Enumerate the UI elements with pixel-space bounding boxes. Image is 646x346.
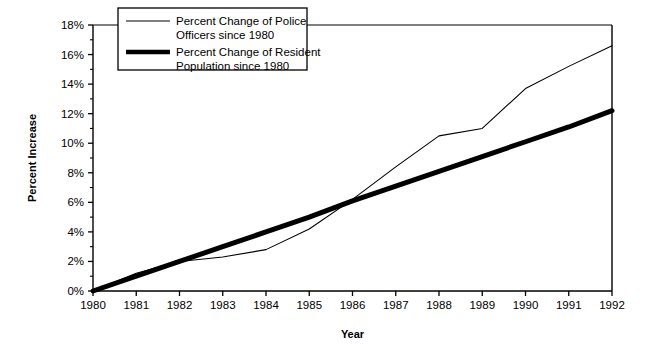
y-tick-label: 0% xyxy=(67,285,84,297)
legend-label-resident-population-line2: Population since 1980 xyxy=(176,60,289,72)
y-axis-title: Percent Increase xyxy=(26,114,38,202)
legend-label-resident-population-line1: Percent Change of Resident xyxy=(176,46,321,58)
x-tick-label: 1984 xyxy=(253,299,279,311)
x-tick-label: 1982 xyxy=(167,299,193,311)
y-tick-label: 10% xyxy=(61,137,84,149)
legend-label-police-officers-line2: Officers since 1980 xyxy=(176,29,274,41)
x-axis-title: Year xyxy=(341,328,365,340)
chart-page: 0%2%4%6%8%10%12%14%16%18%198019811982198… xyxy=(0,0,646,346)
legend-label-police-officers-line1: Percent Change of Police xyxy=(176,15,306,27)
x-tick-label: 1990 xyxy=(513,299,539,311)
x-tick-label: 1983 xyxy=(210,299,236,311)
x-tick-label: 1986 xyxy=(340,299,366,311)
y-tick-label: 6% xyxy=(67,196,84,208)
x-tick-label: 1988 xyxy=(426,299,452,311)
series-line-police-officers xyxy=(93,46,612,291)
y-tick-label: 8% xyxy=(67,167,84,179)
x-tick-label: 1981 xyxy=(123,299,149,311)
y-tick-label: 14% xyxy=(61,78,84,90)
x-tick-label: 1985 xyxy=(296,299,322,311)
line-chart: 0%2%4%6%8%10%12%14%16%18%198019811982198… xyxy=(0,0,646,346)
x-tick-label: 1992 xyxy=(599,299,625,311)
x-tick-label: 1987 xyxy=(383,299,409,311)
y-tick-label: 4% xyxy=(67,226,84,238)
x-tick-label: 1980 xyxy=(80,299,106,311)
y-tick-label: 16% xyxy=(61,49,84,61)
series-line-resident-population xyxy=(93,111,612,291)
x-tick-label: 1991 xyxy=(556,299,582,311)
y-tick-label: 2% xyxy=(67,255,84,267)
y-tick-label: 12% xyxy=(61,108,84,120)
y-tick-label: 18% xyxy=(61,19,84,31)
x-tick-label: 1989 xyxy=(469,299,495,311)
